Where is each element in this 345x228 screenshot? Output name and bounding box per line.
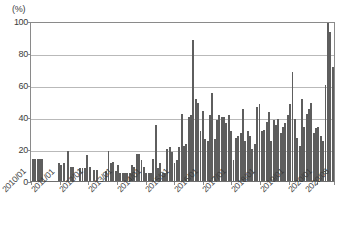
bar-series [31, 23, 334, 181]
y-axis-tick-marks [0, 22, 34, 182]
y-axis-unit-label: (%) [12, 4, 25, 14]
y-axis-tick-mark [28, 118, 31, 119]
plot-area [30, 22, 335, 182]
y-axis-tick-mark [28, 86, 31, 87]
y-axis-tick-mark [28, 22, 31, 23]
y-axis-tick-mark [28, 150, 31, 151]
bar-chart: (%) 100806040200 2010/012011/012012/0120… [0, 0, 345, 228]
y-axis-tick-mark [28, 54, 31, 55]
bar [89, 167, 91, 181]
x-axis-tick-labels: 2010/012011/012012/012013/012014/012015/… [0, 182, 345, 228]
bar [332, 67, 334, 181]
